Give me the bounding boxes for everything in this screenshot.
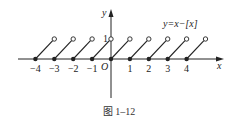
closed-dot-icon [128, 57, 132, 61]
x-tick-label: −3 [49, 63, 60, 74]
x-tick-label: 1 [127, 63, 132, 74]
sawtooth-segments [35, 41, 204, 59]
x-tick-label: −2 [68, 63, 79, 74]
y-axis-label: y [101, 7, 107, 18]
closed-dot-icon [109, 57, 113, 61]
y-axis-arrow-icon [109, 9, 114, 17]
figure-caption: 图 1–12 [0, 103, 238, 118]
x-tick-label: −1 [87, 63, 98, 74]
closed-dot-icon [147, 57, 151, 61]
open-circle-icon [166, 37, 170, 41]
x-tick-label: −4 [30, 63, 41, 74]
x-tick-label: 4 [184, 63, 189, 74]
open-circle-icon [52, 37, 56, 41]
closed-dot-icon [33, 57, 37, 61]
segment [149, 41, 166, 59]
segment [111, 41, 128, 59]
open-circle-icon [128, 37, 132, 41]
x-tick-labels: −4−3−2−11234 [30, 63, 189, 74]
open-circle-icon [90, 37, 94, 41]
segment [54, 41, 71, 59]
open-circle-icon [184, 37, 188, 41]
closed-dot-icon [184, 57, 188, 61]
open-circle-icon [203, 37, 207, 41]
closed-dot-icon [52, 57, 56, 61]
segment [73, 41, 90, 59]
y-tick-1: 1 [103, 33, 108, 44]
function-label: y=x−[x] [162, 18, 198, 29]
segment [130, 41, 147, 59]
x-tick-label: 2 [146, 63, 151, 74]
x-tick-label: 3 [165, 63, 170, 74]
closed-dot-icon [90, 57, 94, 61]
x-axis-label: x [216, 60, 222, 71]
open-circle-icon [71, 37, 75, 41]
sawtooth-function-figure: y x O 1 y=x−[x] −4−3−2−11234 图 1–12 [0, 0, 238, 129]
segment [35, 41, 52, 59]
closed-dot-icon [71, 57, 75, 61]
segment [168, 41, 185, 59]
open-circle-icon [109, 37, 113, 41]
closed-dot-icon [166, 57, 170, 61]
open-circle-icon [147, 37, 151, 41]
segment [187, 41, 204, 59]
origin-label: O [101, 61, 108, 72]
